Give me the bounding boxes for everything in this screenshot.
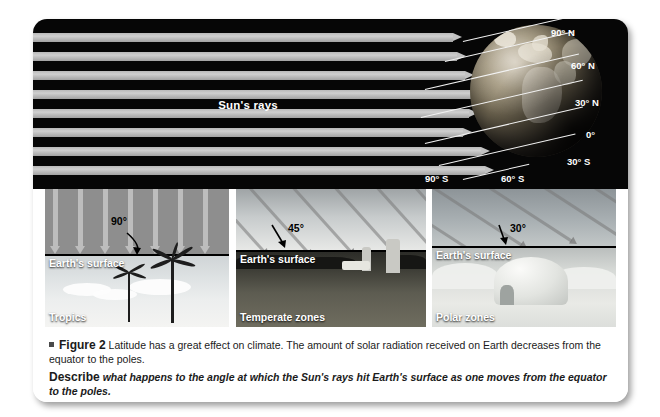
tropics-angle-label: 90° [111, 215, 127, 227]
sun-ray [33, 128, 463, 137]
sun-ray [33, 90, 473, 99]
sun-rays-diagram: Sun's rays 90° N 60° N 30° N 0° [33, 19, 628, 189]
caption-prompt-text: what happens to the angle at which the S… [49, 371, 606, 397]
temperate-surface-label: Earth's surface [240, 253, 315, 265]
tropics-surface-label: Earth's surface [49, 257, 124, 269]
latitude-label-90s: 90° S [425, 173, 448, 184]
caption-bullet-icon [49, 342, 54, 347]
sun-ray [33, 166, 485, 175]
panel-polar: 30° Earth's surface Polar zones [432, 189, 616, 327]
cloud [129, 279, 191, 295]
polar-surface-label: Earth's surface [436, 249, 511, 261]
latitude-label-30n: 30° N [575, 97, 599, 108]
panel-tropics: 90° Earth's surface Tropics [45, 189, 229, 327]
latitude-label-60s: 60° S [501, 173, 524, 184]
polar-zone-label: Polar zones [436, 311, 495, 323]
sun-ray [33, 33, 453, 42]
figure-number: Figure 2 [59, 338, 106, 352]
sun-rays-label: Sun's rays [33, 99, 463, 111]
caption-body-text: Latitude has a great effect on climate. … [49, 339, 601, 365]
cloud [93, 289, 137, 300]
ray-tip-icon [453, 33, 462, 41]
latitude-label-0: 0° [586, 129, 595, 140]
snow-drift [432, 263, 498, 289]
caption-body-line: Figure 2 Latitude has a great effect on … [49, 338, 612, 366]
latitude-label-60n: 60° N [571, 60, 595, 71]
palm-tree-trunk [128, 272, 130, 322]
caption-prompt-line: Describe what happens to the angle at wh… [49, 370, 612, 398]
latitude-label-30s: 30° S [567, 156, 590, 167]
temperate-angle-label: 45° [288, 222, 304, 234]
caption-prompt-label: Describe [49, 370, 100, 384]
polar-horizon-line [432, 246, 616, 248]
figure-caption: Figure 2 Latitude has a great effect on … [33, 330, 628, 402]
climate-zone-panels: 90° Earth's surface Tropics [33, 189, 628, 327]
sun-ray [33, 52, 457, 61]
palm-tree-trunk [171, 259, 174, 323]
farm-silo [386, 239, 400, 273]
latitude-label-90n: 90° N [551, 27, 575, 38]
polar-angle-label: 30° [510, 222, 526, 234]
panel-temperate: 45° Earth's surface Temperate zones [236, 189, 426, 327]
sun-ray [33, 147, 481, 156]
igloo-entrance [500, 285, 514, 305]
figure-card: Sun's rays 90° N 60° N 30° N 0° [33, 19, 628, 402]
sun-ray [33, 71, 465, 80]
tropics-horizon-line [45, 254, 229, 256]
figure-page: Sun's rays 90° N 60° N 30° N 0° [0, 0, 660, 417]
barn-roof [342, 261, 370, 270]
temperate-zone-label: Temperate zones [240, 311, 325, 323]
tropics-zone-label: Tropics [49, 311, 86, 323]
